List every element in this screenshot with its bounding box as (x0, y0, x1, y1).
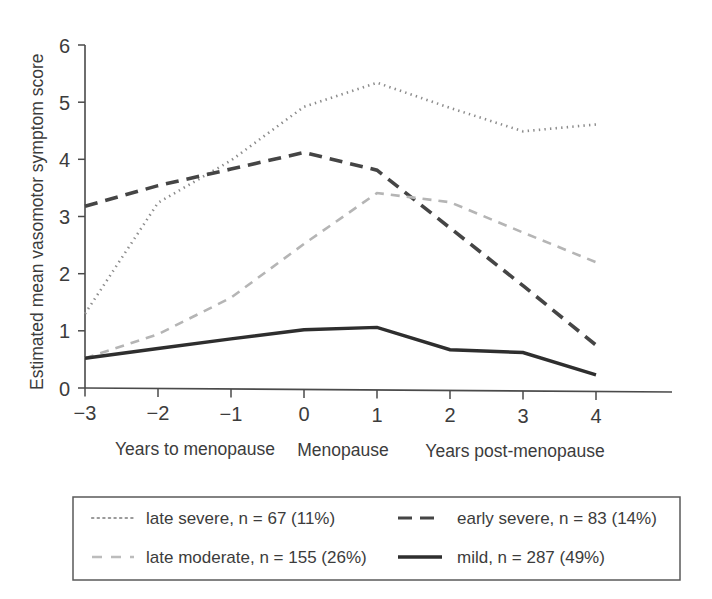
y-axis-tick-labels: 6 5 4 3 2 1 0 (59, 35, 70, 400)
legend-label-mild: mild, n = 287 (49%) (457, 548, 605, 567)
x-tick-label: −2 (147, 402, 170, 424)
series-mild (85, 327, 596, 374)
legend-label-late-severe: late severe, n = 67 (11%) (146, 509, 335, 528)
series-late-severe (85, 83, 596, 314)
legend-entry-mild[interactable]: mild, n = 287 (49%) (398, 548, 605, 567)
x-axis-caption-menopause: Menopause (297, 440, 388, 460)
x-tick-label: −1 (220, 403, 243, 425)
y-tick-label: 2 (59, 263, 70, 285)
vasomotor-symptom-chart-figure: Estimated mean vasomotor symptom score 6… (0, 0, 712, 599)
legend-label-late-moderate: late moderate, n = 155 (26%) (146, 548, 367, 567)
x-axis-captions: Years to menopause Menopause Years post-… (115, 439, 605, 461)
series-late-moderate (85, 193, 596, 358)
x-axis-tick-labels: −3 −2 −1 0 1 2 3 4 (74, 402, 602, 427)
legend-entry-late-severe[interactable]: late severe, n = 67 (11%) (92, 509, 335, 528)
x-tick-label: 0 (298, 403, 309, 425)
y-axis-ticks (78, 45, 85, 388)
x-axis-line (85, 388, 672, 392)
legend-label-early-severe: early severe, n = 83 (14%) (457, 509, 657, 528)
legend-entry-early-severe[interactable]: early severe, n = 83 (14%) (398, 509, 657, 528)
y-tick-label: 0 (59, 378, 70, 400)
series-early-severe (85, 152, 596, 345)
legend-entry-late-moderate[interactable]: late moderate, n = 155 (26%) (92, 548, 367, 567)
y-tick-label: 5 (59, 92, 70, 114)
x-tick-label: 4 (590, 405, 601, 427)
x-axis-caption-years-to-menopause: Years to menopause (115, 439, 275, 459)
x-tick-label: −3 (74, 402, 97, 424)
y-tick-label: 3 (59, 206, 70, 228)
y-axis-title: Estimated mean vasomotor symptom score (27, 53, 47, 390)
y-tick-label: 4 (59, 149, 70, 171)
y-tick-label: 1 (59, 320, 70, 342)
x-tick-label: 2 (444, 404, 455, 426)
y-tick-label: 6 (59, 35, 70, 57)
chart-canvas: Estimated mean vasomotor symptom score 6… (0, 0, 712, 599)
x-tick-label: 3 (517, 405, 528, 427)
x-tick-label: 1 (371, 404, 382, 426)
x-axis-caption-years-post-menopause: Years post-menopause (425, 441, 604, 461)
